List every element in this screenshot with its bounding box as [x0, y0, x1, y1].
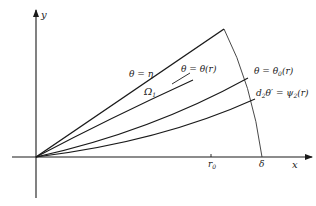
label-theta-r: θ = θ(r)	[181, 64, 217, 74]
curve-psi2	[36, 99, 255, 157]
label-theta-eta: θ = η	[129, 69, 154, 79]
label-theta0-r: θ = θ0(r)	[254, 66, 294, 77]
curve-theta-r	[36, 80, 193, 157]
curve-theta0-r	[36, 78, 248, 157]
curve-theta-eta	[36, 29, 224, 157]
r0-label: r0	[208, 159, 216, 170]
sector-diagram: y x r0 δ θ = η θ = θ(r) θ = θ0(r) d2θ′ =…	[0, 0, 316, 206]
label-psi2: d2θ′ = ψ2(r)	[256, 88, 309, 99]
y-axis-label: y	[40, 9, 47, 20]
region-omega1-label: Ω1	[143, 86, 156, 98]
x-axis-label: x	[292, 159, 298, 170]
delta-label: δ	[259, 159, 264, 169]
